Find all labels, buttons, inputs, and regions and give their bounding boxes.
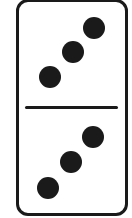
top-pip-3 [39, 66, 61, 88]
bottom-pip-1 [82, 126, 104, 148]
top-pip-2 [62, 41, 84, 63]
top-pip-1 [83, 17, 105, 39]
domino-canvas [0, 0, 132, 218]
domino-divider-line [25, 106, 118, 109]
bottom-pip-2 [60, 151, 82, 173]
bottom-pip-3 [37, 177, 59, 199]
